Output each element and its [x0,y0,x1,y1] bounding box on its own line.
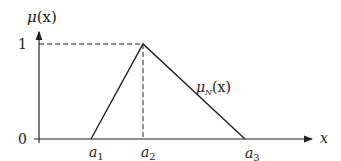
x-tick-a3: a3 [245,145,260,161]
x-axis-label: x [320,130,328,146]
curve-label: μN(x) [196,79,231,97]
y-tick-1: 1 [18,36,27,52]
y-tick-0: 0 [18,131,27,147]
x-tick-a1: a1 [89,144,104,161]
x-tick-a2: a2 [141,144,156,161]
y-axis-label: μ(x) [27,8,57,26]
membership-function-diagram: μ(x) 1 0 a1 a2 a3 x μN(x) [0,0,341,161]
